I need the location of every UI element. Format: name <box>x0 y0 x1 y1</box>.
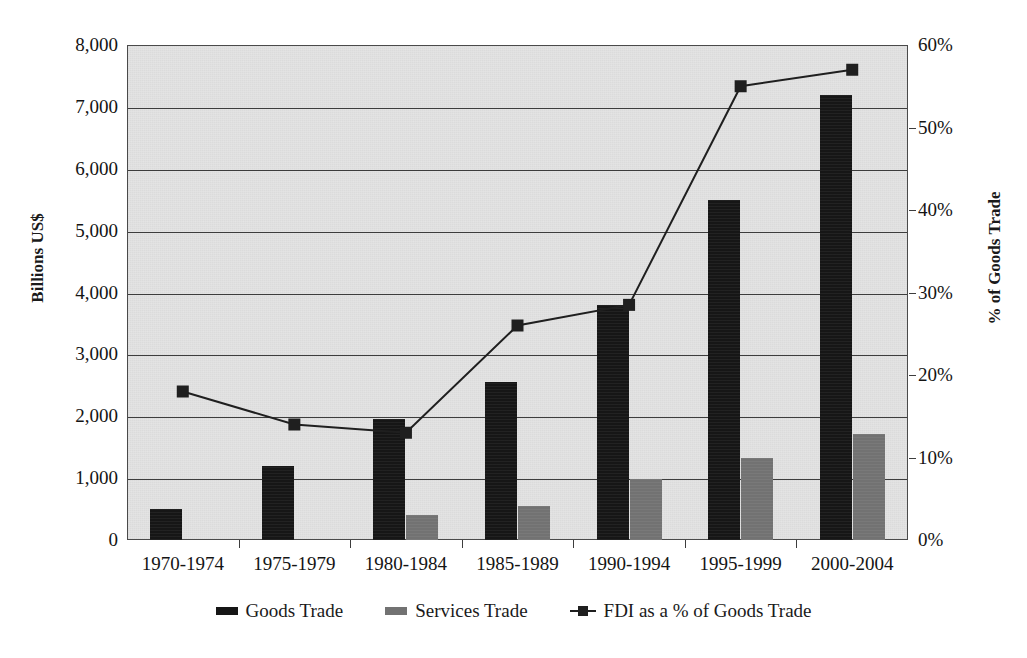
legend-item[interactable]: Services Trade <box>385 600 527 622</box>
y-axis-left-tick-label: 1,000 <box>8 468 118 487</box>
fdi-line-marker <box>623 299 635 311</box>
y-axis-right-tick-label: 40% <box>918 200 988 219</box>
fdi-line-marker <box>735 80 747 92</box>
x-axis-category-labels: 1970-19741975-19791980-19841985-19891990… <box>127 551 908 577</box>
y-axis-left-tick-label: 3,000 <box>8 344 118 363</box>
y-axis-right-tick-label: 30% <box>918 283 988 302</box>
fdi-line-marker <box>846 64 858 76</box>
legend-item[interactable]: FDI as a % of Goods Trade <box>570 600 812 622</box>
fdi-line-marker <box>512 320 524 332</box>
y-axis-left-tick-label: 8,000 <box>8 35 118 54</box>
x-axis-category-label: 1975-1979 <box>239 551 351 577</box>
y-axis-left-tick-label: 7,000 <box>8 97 118 116</box>
chart-legend: Goods TradeServices TradeFDI as a % of G… <box>0 600 1027 622</box>
legend-label: Goods Trade <box>246 600 344 622</box>
legend-services-swatch-icon <box>385 607 407 615</box>
chart-figure: 01,0002,0003,0004,0005,0006,0007,0008,00… <box>0 0 1027 658</box>
x-axis-tick-mark <box>350 540 351 548</box>
y-axis-right-tick-mark <box>909 458 916 459</box>
x-axis-tick-mark <box>573 540 574 548</box>
x-axis-tick-mark <box>685 540 686 548</box>
fdi-line-marker <box>400 427 412 439</box>
x-axis-tick-mark <box>239 540 240 548</box>
y-axis-left-tick-label: 0 <box>8 530 118 549</box>
x-axis-category-label: 1985-1989 <box>462 551 574 577</box>
fdi-line-path <box>183 70 852 433</box>
y-axis-right-tick-label: 20% <box>918 365 988 384</box>
y-axis-right-tick-mark <box>909 210 916 211</box>
legend-item[interactable]: Goods Trade <box>216 600 344 622</box>
y-axis-right-tick-mark <box>909 293 916 294</box>
y-axis-right-tick-mark <box>909 375 916 376</box>
legend-label: FDI as a % of Goods Trade <box>604 600 812 622</box>
legend-goods-swatch-icon <box>216 607 238 615</box>
y-axis-left-tick-label: 5,000 <box>8 221 118 240</box>
x-axis-category-label: 1980-1984 <box>350 551 462 577</box>
y-axis-right-tick-label: 50% <box>918 118 988 137</box>
y-axis-left-tick-label: 4,000 <box>8 283 118 302</box>
x-axis-category-label: 2000-2004 <box>796 551 908 577</box>
fdi-line-marker <box>177 386 189 398</box>
x-axis-tick-mark <box>462 540 463 548</box>
fdi-line-series <box>127 45 908 540</box>
y-axis-right-tick-label: 0% <box>918 530 988 549</box>
y-axis-right-tick-mark <box>909 128 916 129</box>
y-axis-left-title: Billions US$ <box>28 158 48 358</box>
legend-label: Services Trade <box>415 600 527 622</box>
x-axis-category-label: 1995-1999 <box>685 551 797 577</box>
x-axis-tick-mark <box>796 540 797 548</box>
y-axis-right-tick-label: 60% <box>918 35 988 54</box>
x-axis-category-label: 1970-1974 <box>127 551 239 577</box>
y-axis-right-title: % of Goods Trade <box>985 143 1005 373</box>
y-axis-left-tick-label: 2,000 <box>8 406 118 425</box>
legend-square-marker <box>578 606 588 616</box>
y-axis-right-tick-label: 10% <box>918 448 988 467</box>
legend-line-marker-icon <box>570 605 596 617</box>
x-axis-category-label: 1990-1994 <box>573 551 685 577</box>
y-axis-left-tick-label: 6,000 <box>8 159 118 178</box>
fdi-line-marker <box>288 419 300 431</box>
